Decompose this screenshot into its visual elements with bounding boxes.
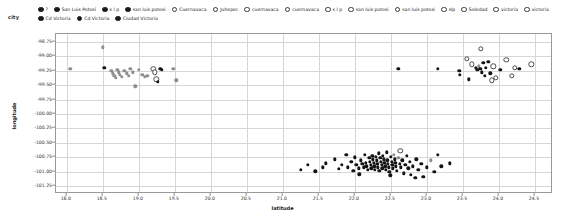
data-point [407, 167, 410, 170]
data-point [402, 171, 405, 174]
x-tick-label: 22.0 [349, 196, 359, 201]
data-point [440, 164, 443, 167]
legend-item[interactable]: victoria [524, 5, 549, 14]
data-point [299, 168, 302, 171]
x-tick-mark [498, 193, 499, 196]
data-point [396, 156, 399, 159]
gridline-vertical [103, 34, 104, 192]
data-point [499, 68, 502, 71]
legend-item-label: Cd Victoria [46, 16, 71, 21]
data-point [152, 70, 157, 75]
data-point [478, 46, 483, 51]
x-tick-label: 24.5 [529, 196, 539, 201]
legend-marker-icon [441, 7, 447, 13]
legend-marker-icon [38, 16, 44, 22]
data-point [385, 151, 388, 154]
legend-item[interactable]: s l p [325, 5, 342, 14]
legend-marker-icon [213, 7, 219, 13]
data-point [458, 69, 461, 72]
x-tick-mark [354, 193, 355, 196]
x-tick-label: 23.5 [457, 196, 467, 201]
legend-item-label: Juhepec [220, 7, 238, 12]
legend-item[interactable]: slp [441, 5, 455, 14]
x-tick-mark [174, 193, 175, 196]
x-tick-label: 23.0 [421, 196, 431, 201]
legend-item[interactable]: Juhepec [213, 5, 239, 14]
legend-marker-icon [493, 7, 499, 13]
y-tick-label: -101.00 [0, 168, 52, 173]
data-point [417, 168, 420, 171]
y-tick-label: -100.00 [0, 111, 52, 116]
legend-item[interactable]: Soledad [461, 5, 487, 14]
data-point [422, 175, 425, 178]
gridline-vertical [535, 34, 536, 192]
y-axis-title: longitude [11, 86, 17, 146]
legend-item-label: Cuernavaca [179, 7, 206, 12]
legend-item[interactable]: Cd Victoria [38, 14, 71, 23]
legend-item-label: slp [449, 7, 456, 12]
gridline-horizontal [56, 100, 551, 101]
y-tick-label: -99.25 [0, 67, 52, 72]
y-tick-label: -100.25 [0, 125, 52, 130]
x-tick-label: 19.0 [133, 196, 143, 201]
x-tick-label: 19.5 [169, 196, 179, 201]
data-point [324, 162, 327, 165]
data-point [483, 74, 486, 77]
legend-item[interactable]: san luis potosi [395, 5, 436, 14]
data-point [467, 78, 470, 81]
x-tick-mark [426, 193, 427, 196]
gridline-horizontal [56, 128, 551, 129]
legend-item[interactable]: Ciudad Victoria [115, 14, 158, 23]
data-point [414, 176, 417, 179]
x-tick-label: 21.5 [313, 196, 323, 201]
data-point [340, 163, 343, 166]
x-tick-mark [137, 193, 138, 196]
x-tick-label: 20.5 [241, 196, 251, 201]
gridline-vertical [211, 34, 212, 192]
y-tick-label: -100.75 [0, 154, 52, 159]
x-tick-mark [462, 193, 463, 196]
data-point [458, 73, 461, 76]
legend-title: city [8, 14, 19, 20]
legend-item[interactable]: cuernavaca [285, 5, 319, 14]
x-tick-label: 20.0 [205, 196, 215, 201]
data-point [345, 153, 348, 156]
data-point [411, 164, 414, 167]
legend-item[interactable]: victoria [493, 5, 518, 14]
data-point [392, 153, 395, 156]
legend-item-label: victoria [532, 7, 549, 12]
data-point [156, 80, 159, 83]
data-point [394, 164, 397, 167]
legend-item-label: Soledad [469, 7, 487, 12]
x-tick-label: 24.0 [493, 196, 503, 201]
data-point [358, 173, 361, 176]
x-tick-mark [318, 193, 319, 196]
y-tick-label: -98.75 [0, 38, 52, 43]
legend-marker-icon [348, 7, 354, 13]
data-point [137, 68, 140, 71]
legend-item[interactable]: Cd Victoria [77, 14, 110, 23]
legend-item[interactable]: cuernavaca [244, 5, 278, 14]
gridline-horizontal [56, 85, 551, 86]
x-tick-mark [390, 193, 391, 196]
legend-item-label: s l p [110, 7, 120, 12]
data-point [146, 74, 149, 77]
data-point [503, 57, 508, 62]
legend-item-label: san luis potosi [133, 7, 166, 12]
scatter-plot-figure: city ?San Luis Potosís l psan luis potos… [0, 0, 565, 224]
gridline-vertical [139, 34, 140, 192]
data-point [493, 75, 498, 80]
data-point [464, 56, 469, 61]
data-point [306, 163, 309, 166]
data-point [103, 66, 106, 69]
plot-area [55, 33, 552, 193]
legend-marker-icon [325, 7, 331, 13]
legend-marker-icon [395, 7, 401, 13]
y-tick-label: -101.25 [0, 183, 52, 188]
data-point [432, 170, 435, 173]
data-point [398, 148, 403, 153]
legend-item[interactable]: san luis potosi [348, 5, 389, 14]
data-point [321, 166, 324, 169]
legend-item[interactable]: Cuernavaca [172, 5, 207, 14]
gridline-vertical [355, 34, 356, 192]
